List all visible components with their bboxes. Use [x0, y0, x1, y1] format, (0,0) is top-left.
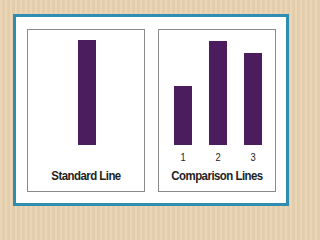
comparison-lines-caption: Comparison Lines: [166, 168, 268, 183]
standard-plot-area: [28, 30, 144, 145]
comparison-plot-area: [159, 30, 275, 145]
comparison-label-2: 2: [210, 151, 225, 163]
comparison-line-bar-3: [244, 53, 262, 145]
comparison-label-1: 1: [175, 151, 190, 163]
comparison-line-bar-1: [174, 86, 192, 145]
standard-line-caption: Standard Line: [35, 168, 137, 183]
standard-line-bar: [78, 40, 96, 145]
comparison-label-3: 3: [245, 151, 260, 163]
comparison-line-bar-2: [209, 41, 227, 145]
comparison-lines-panel: 1 2 3 Comparison Lines: [158, 29, 276, 192]
standard-line-panel: Standard Line: [27, 29, 145, 192]
